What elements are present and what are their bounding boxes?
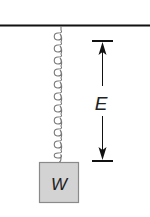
weight-label: W — [51, 175, 69, 194]
dimension-label: E — [95, 93, 108, 114]
spring — [54, 26, 61, 162]
spring-diagram: W E — [0, 0, 150, 217]
